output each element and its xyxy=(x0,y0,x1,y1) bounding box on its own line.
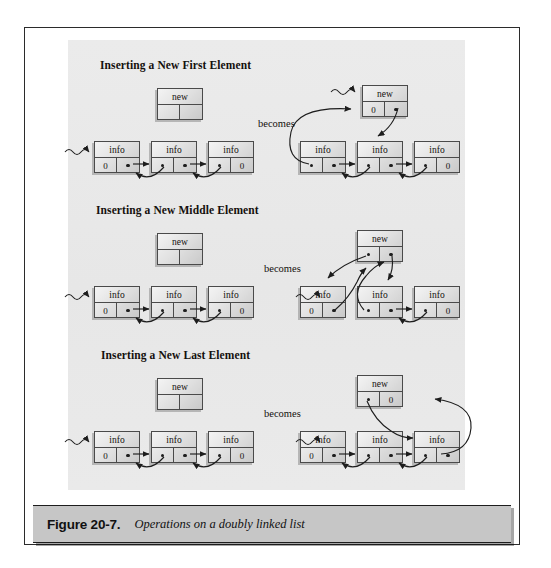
node-prev-cell xyxy=(209,303,231,318)
becomes-label-first: becomes xyxy=(258,118,295,129)
node-prev-cell xyxy=(415,158,437,173)
pointer-dot-icon xyxy=(389,164,393,168)
figure-page: Inserting a New First Element Inserting … xyxy=(0,0,551,568)
node-next-cell xyxy=(323,158,345,173)
node-next-cell: 0 xyxy=(380,392,402,407)
pointer-dot-icon xyxy=(424,454,428,458)
node-top-cell: new xyxy=(158,234,202,250)
section-heading-middle: Inserting a New Middle Element xyxy=(96,204,259,216)
pointer-dot-icon xyxy=(367,398,371,402)
pointer-dot-icon xyxy=(310,164,314,168)
pointer-dot-icon xyxy=(161,309,165,313)
node-prev-cell xyxy=(415,303,437,318)
node-top-cell: info xyxy=(152,142,196,158)
node-bottom-row: 0 xyxy=(415,303,459,318)
node-top-cell: new xyxy=(363,86,407,102)
node-prev-cell xyxy=(358,392,380,407)
node-prev-cell xyxy=(158,395,180,410)
node-top-cell: info xyxy=(95,287,139,303)
node-new-before-middle: new xyxy=(157,233,203,265)
node-info-3-before-last: info 0 xyxy=(208,431,254,463)
section-heading-last: Inserting a New Last Element xyxy=(101,349,250,361)
node-info-1-after-middle: info 0 xyxy=(300,286,346,318)
node-prev-cell: 0 xyxy=(95,448,117,463)
node-next-cell xyxy=(437,448,459,463)
pointer-dot-icon xyxy=(126,164,130,168)
becomes-label-middle: becomes xyxy=(264,263,301,274)
node-prev-cell xyxy=(158,250,180,265)
node-next-cell: 0 xyxy=(231,448,253,463)
pointer-dot-icon xyxy=(218,309,222,313)
node-info-2-after-last: info xyxy=(357,431,403,463)
node-next-cell xyxy=(180,395,202,410)
pointer-dot-icon xyxy=(218,454,222,458)
node-prev-cell xyxy=(415,448,437,463)
node-top-cell: new xyxy=(358,376,402,392)
node-bottom-row: 0 xyxy=(363,102,407,117)
node-top-cell: info xyxy=(301,287,345,303)
node-next-cell: 0 xyxy=(437,303,459,318)
node-bottom-row xyxy=(158,250,202,265)
node-prev-cell xyxy=(358,448,380,463)
node-prev-cell xyxy=(209,448,231,463)
node-bottom-row xyxy=(358,247,402,262)
node-top-cell: info xyxy=(152,287,196,303)
node-info-2-after-middle: info xyxy=(357,286,403,318)
becomes-label-last: becomes xyxy=(264,408,301,419)
node-bottom-row: 0 xyxy=(301,303,345,318)
pointer-dot-icon xyxy=(367,309,371,313)
node-next-cell xyxy=(117,158,139,173)
node-bottom-row xyxy=(152,303,196,318)
pointer-dot-icon xyxy=(389,309,393,313)
pointer-dot-icon xyxy=(161,164,165,168)
node-top-cell: info xyxy=(358,432,402,448)
node-info-1-after-last: info 0 xyxy=(300,431,346,463)
node-bottom-row: 0 xyxy=(209,448,253,463)
node-top-cell: info xyxy=(415,287,459,303)
node-prev-cell xyxy=(152,303,174,318)
node-next-cell xyxy=(180,250,202,265)
pointer-dot-icon xyxy=(367,164,371,168)
node-prev-cell: 0 xyxy=(95,303,117,318)
pointer-dot-icon xyxy=(183,454,187,458)
node-top-cell: info xyxy=(358,287,402,303)
pointer-dot-icon xyxy=(394,108,398,112)
node-next-cell: 0 xyxy=(437,158,459,173)
node-new-before-first: new xyxy=(157,88,203,120)
node-top-cell: new xyxy=(358,231,402,247)
node-info-1-after-first: info xyxy=(300,141,346,173)
node-bottom-row: 0 xyxy=(95,448,139,463)
node-info-2-after-first: info xyxy=(357,141,403,173)
node-prev-cell xyxy=(301,158,323,173)
node-prev-cell xyxy=(358,158,380,173)
pointer-dot-icon xyxy=(367,253,371,257)
node-next-cell xyxy=(174,158,196,173)
node-next-cell xyxy=(180,105,202,120)
pointer-dot-icon xyxy=(183,309,187,313)
pointer-dot-icon xyxy=(424,309,428,313)
node-bottom-row xyxy=(358,448,402,463)
node-top-cell: info xyxy=(209,432,253,448)
node-info-3-after-last: info xyxy=(414,431,460,463)
pointer-dot-icon xyxy=(161,454,165,458)
node-bottom-row xyxy=(158,105,202,120)
node-info-3-before-first: info 0 xyxy=(208,141,254,173)
node-top-cell: info xyxy=(415,432,459,448)
node-new-before-last: new xyxy=(157,378,203,410)
node-next-cell: 0 xyxy=(231,303,253,318)
node-top-cell: info xyxy=(358,142,402,158)
node-next-cell xyxy=(385,102,407,117)
figure-caption-text: Operations on a doubly linked list xyxy=(134,517,304,532)
node-prev-cell xyxy=(152,448,174,463)
node-prev-cell: 0 xyxy=(363,102,385,117)
node-info-3-before-middle: info 0 xyxy=(208,286,254,318)
node-prev-cell: 0 xyxy=(301,303,323,318)
figure-caption-bar: Figure 20-7. Operations on a doubly link… xyxy=(33,505,511,543)
pointer-dot-icon xyxy=(218,164,222,168)
pointer-dot-icon xyxy=(183,164,187,168)
pointer-dot-icon xyxy=(332,309,336,313)
node-info-2-before-last: info xyxy=(151,431,197,463)
node-prev-cell xyxy=(209,158,231,173)
node-bottom-row xyxy=(358,158,402,173)
node-next-cell xyxy=(380,448,402,463)
